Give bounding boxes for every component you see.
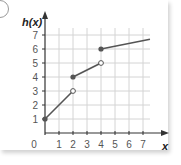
y-tick-label: 7	[32, 30, 38, 41]
x-tick-label: 7	[140, 139, 146, 150]
x-tick-label: 5	[112, 139, 118, 150]
x-axis-arrow-icon	[161, 130, 169, 136]
y-axis-arrow-icon	[42, 11, 48, 19]
piecewise-function-chart: 123456712345670h(x)x	[0, 0, 181, 165]
y-tick-label: 1	[32, 114, 38, 125]
y-tick-label: 3	[32, 86, 38, 97]
open-endpoint	[71, 89, 76, 94]
closed-endpoint	[42, 116, 47, 121]
y-tick-label: 2	[32, 100, 38, 111]
y-tick-label: 4	[32, 72, 38, 83]
y-tick-label: 6	[32, 44, 38, 55]
closed-endpoint	[70, 74, 75, 79]
x-tick-label: 4	[98, 139, 104, 150]
x-tick-label: 1	[56, 139, 62, 150]
origin-label: 0	[31, 139, 37, 150]
x-tick-label: 6	[126, 139, 132, 150]
y-axis-title: h(x)	[22, 16, 43, 28]
closed-endpoint	[98, 46, 103, 51]
x-axis-title: x	[161, 140, 169, 152]
y-tick-label: 5	[32, 58, 38, 69]
open-endpoint	[99, 61, 104, 66]
x-tick-label: 2	[70, 139, 76, 150]
x-tick-label: 3	[84, 139, 90, 150]
